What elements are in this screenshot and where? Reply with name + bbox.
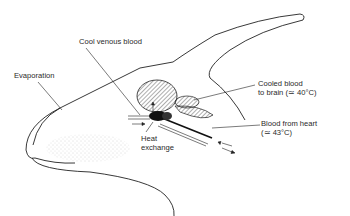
elongated-region: [175, 106, 213, 118]
label-cooled-blood-line2: to brain (≃ 40°C): [258, 88, 317, 97]
label-blood-from-heart: Blood from heart (≃ 43°C): [261, 119, 317, 137]
leader-cooled-blood: [194, 85, 255, 100]
label-heat-exchange: Heat exchange: [141, 134, 174, 152]
leader-evaporation: [38, 82, 62, 110]
head-diagram: [0, 0, 350, 216]
label-cooled-blood: Cooled blood to brain (≃ 40°C): [258, 79, 317, 97]
label-heat-exchange-line1: Heat: [141, 134, 174, 143]
label-evaporation: Evaporation: [14, 71, 55, 80]
evaporation-area: [46, 134, 130, 162]
label-blood-from-heart-line2: (≃ 43°C): [261, 128, 317, 137]
leader-heat-exchange: [146, 122, 153, 132]
jaw-outline: [32, 158, 174, 216]
label-blood-from-heart-line1: Blood from heart: [261, 119, 317, 128]
leader-cool-venous: [86, 48, 140, 115]
label-heat-exchange-line2: exchange: [141, 143, 174, 152]
label-cool-venous-blood: Cool venous blood: [79, 37, 142, 46]
label-cooled-blood-line1: Cooled blood: [258, 79, 317, 88]
brain-region: [137, 80, 177, 112]
leader-blood-from-heart: [212, 125, 260, 128]
